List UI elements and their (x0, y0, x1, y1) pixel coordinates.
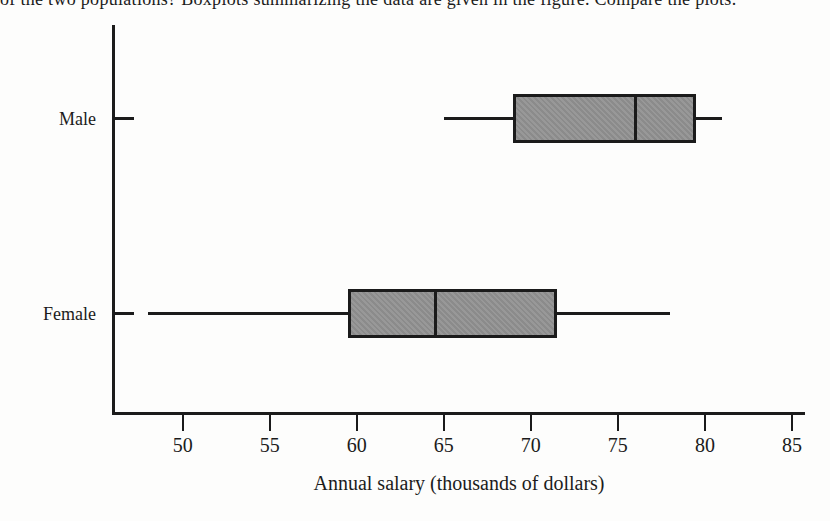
whisker-left-male (444, 117, 514, 120)
x-axis-title: Annual salary (thousands of dollars) (113, 471, 805, 495)
x-tick (704, 413, 706, 431)
x-axis (112, 412, 805, 415)
median-line-male (634, 94, 637, 143)
x-tick-label: 75 (588, 434, 648, 456)
x-tick-label: 80 (675, 434, 735, 456)
category-tick (113, 117, 134, 120)
x-tick-label: 85 (762, 434, 822, 456)
x-tick (617, 413, 619, 431)
box-female (348, 289, 557, 338)
category-label-female: Female (16, 304, 96, 324)
x-tick (269, 413, 271, 431)
clipped-top-text: of the two populations? Boxplots summari… (0, 0, 820, 9)
category-label-male: Male (16, 109, 96, 129)
x-tick-label: 50 (153, 434, 213, 456)
x-tick (182, 413, 184, 431)
x-tick (791, 413, 793, 431)
x-tick-label: 55 (240, 434, 300, 456)
x-tick (530, 413, 532, 431)
y-axis (112, 25, 115, 415)
x-tick-label: 60 (327, 434, 387, 456)
whisker-left-female (148, 312, 348, 315)
x-tick (443, 413, 445, 431)
whisker-right-female (557, 312, 670, 315)
whisker-right-male (696, 117, 722, 120)
x-tick-label: 70 (501, 434, 561, 456)
x-tick (356, 413, 358, 431)
box-male (513, 94, 696, 143)
boxplot-figure: of the two populations? Boxplots summari… (0, 0, 830, 521)
category-tick (113, 312, 134, 315)
median-line-female (434, 289, 437, 338)
x-tick-label: 65 (414, 434, 474, 456)
